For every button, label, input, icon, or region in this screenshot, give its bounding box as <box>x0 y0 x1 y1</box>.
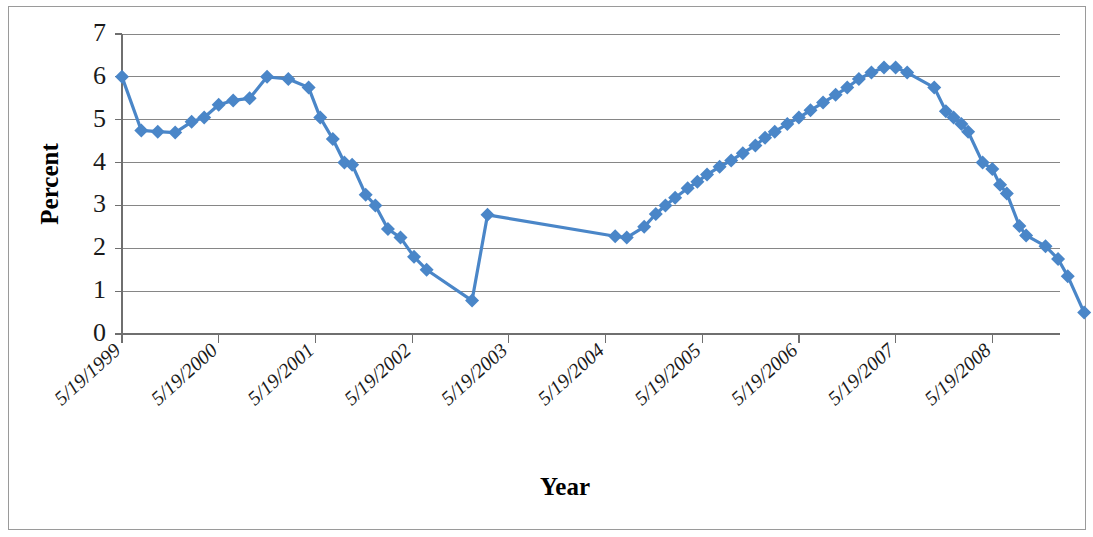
data-point-marker <box>713 160 727 174</box>
data-point-marker <box>302 81 316 95</box>
y-tick-label: 7 <box>93 18 106 47</box>
data-point-marker <box>281 72 295 86</box>
x-tick-label: 5/19/2003 <box>436 339 511 410</box>
data-point-marker <box>1077 306 1091 320</box>
y-tick-label: 3 <box>93 189 106 218</box>
x-tick-label: 5/19/2001 <box>243 339 318 410</box>
series-line-percent <box>122 67 1084 312</box>
y-tick-label: 4 <box>93 147 106 176</box>
y-tick-label: 2 <box>93 232 106 261</box>
data-point-marker <box>115 70 129 84</box>
x-tick-label: 5/19/2007 <box>823 338 899 409</box>
x-tick-label: 5/19/2004 <box>533 339 608 410</box>
data-point-marker <box>134 123 148 137</box>
data-point-marker <box>780 117 794 131</box>
data-point-marker <box>816 96 830 110</box>
x-tick-label: 5/19/2000 <box>146 339 221 410</box>
x-tick-label: 5/19/1999 <box>50 339 125 410</box>
chart-container: 012345675/19/19995/19/20005/19/20015/19/… <box>0 0 1093 537</box>
data-point-marker <box>326 132 340 146</box>
data-point-marker <box>481 208 495 222</box>
x-tick-label: 5/19/2008 <box>920 339 995 410</box>
y-tick-label: 6 <box>93 61 106 90</box>
x-axis-title: Year <box>540 473 590 500</box>
data-point-marker <box>226 93 240 107</box>
line-chart-plot: 012345675/19/19995/19/20005/19/20015/19/… <box>0 0 1093 537</box>
y-axis-title: Percent <box>36 143 63 225</box>
y-tick-label: 5 <box>93 104 106 133</box>
data-point-marker <box>927 81 941 95</box>
x-tick-label: 5/19/2002 <box>340 339 415 410</box>
y-tick-label: 1 <box>93 275 106 304</box>
data-point-marker <box>864 66 878 80</box>
data-point-marker <box>313 111 327 125</box>
data-point-marker <box>620 231 634 245</box>
data-point-marker <box>608 229 622 243</box>
data-point-marker <box>151 125 165 139</box>
x-tick-label: 5/19/2006 <box>727 339 802 410</box>
x-tick-label: 5/19/2005 <box>630 339 705 410</box>
data-point-marker <box>1061 269 1075 283</box>
